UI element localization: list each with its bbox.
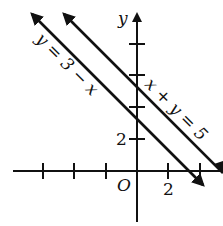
y-axis-label: y [117,8,128,28]
y-tick-label-2: 2 [116,129,127,149]
origin-label: O [117,175,131,195]
coordinate-plane-diagram: y O 2 2 y = 3 − x x + y = 5 [0,0,223,226]
x-tick-label-2: 2 [163,179,174,199]
label-y-equals-3-minus-x: y = 3 − x [31,28,103,100]
